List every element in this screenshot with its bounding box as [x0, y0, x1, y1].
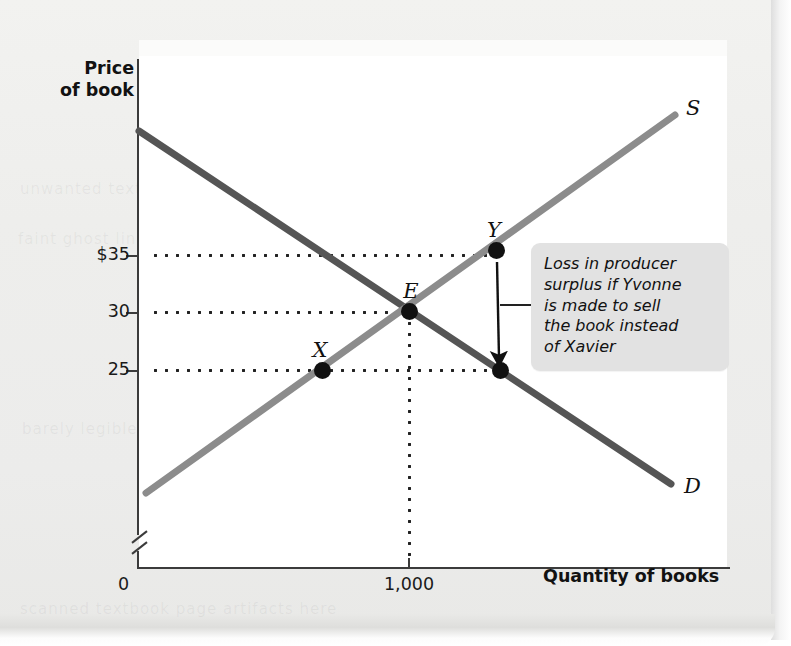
annotation-line-5: of Xavier [544, 337, 716, 358]
point-e-label: E [403, 279, 418, 303]
supply-curve-label: S [686, 96, 700, 120]
annotation-line-4: the book instead [544, 316, 716, 337]
point-y-label: Y [487, 218, 501, 242]
point-e[interactable] [401, 303, 418, 320]
annotation-line-2: surplus if Yvonne [544, 275, 716, 296]
figure-root: unwanted text from reverse of page faint… [0, 0, 791, 646]
annotation-callout: Loss in producer surplus if Yvonne is ma… [531, 243, 729, 371]
point-demand-at-25[interactable] [492, 362, 509, 379]
demand-curve-label: D [684, 474, 701, 498]
point-x-label: X [313, 338, 328, 362]
point-y[interactable] [488, 242, 505, 259]
annotation-line-1: Loss in producer [544, 254, 716, 275]
point-x[interactable] [314, 362, 331, 379]
annotation-line-3: is made to sell [544, 296, 716, 317]
callout-leader-line [500, 304, 533, 306]
loss-arrow [497, 262, 499, 358]
